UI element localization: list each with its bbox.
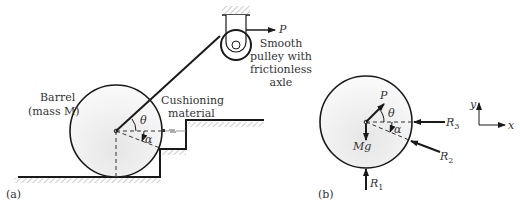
angle-theta-a: θ [140,114,147,127]
fbd-R3-label: R3 [445,116,459,131]
fbd-weight-label: Mg [352,140,371,153]
cushion-label-line1: Cushioning [161,94,224,107]
force-P-label-a: P [278,23,287,36]
panel-a-tag: (a) [6,188,21,201]
fbd-R2-arrow [411,141,440,152]
pulley-label-line1: Smooth [260,37,303,50]
angle-alpha-a: α [145,133,153,146]
pulley-label-line4: axle [270,76,293,89]
panel-b-tag: (b) [318,188,334,201]
panel-b: P Mg θ α R3 R2 R1 (b) y x [318,76,515,201]
barrel-label-line1: Barrel [40,91,76,104]
fbd-R2-label: R2 [439,150,453,165]
barrel-label-line2: (mass M) [28,105,80,118]
pulley-support-hatch [222,6,250,14]
fbd-angle-alpha: α [394,123,402,136]
cushion-label-line2: material [168,107,215,120]
fbd-R1-label: R1 [369,177,383,192]
x-axis-label: x [508,119,515,132]
cushion-spring [165,129,186,133]
cushion-block [162,129,165,132]
fbd-force-P-label: P [379,89,388,102]
ground-hatch [14,178,160,183]
panel-a: θ α P Barrel (mass M) Cushioning materia… [6,6,312,201]
step-hatch-lower [162,150,186,155]
pulley-label-line3: frictionless [250,63,312,76]
pulley-label-line2: pulley with [250,50,312,63]
fbd-angle-theta: θ [388,107,395,120]
pulley-axle [232,41,240,49]
diagram-canvas: θ α P Barrel (mass M) Cushioning materia… [0,0,524,213]
step-hatch-upper [188,122,264,127]
y-axis-label: y [469,98,477,111]
